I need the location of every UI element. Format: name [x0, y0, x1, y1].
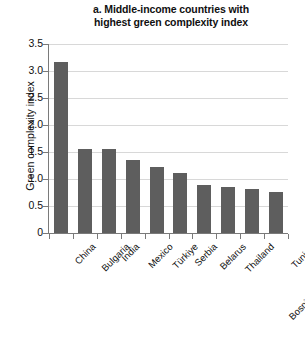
x-tick-mark [192, 234, 193, 239]
y-tick-label: 3.0 [8, 64, 43, 76]
y-tick-label: 0.5 [8, 199, 43, 211]
x-tick-mark [288, 234, 289, 239]
y-tick-label: 2.0 [8, 118, 43, 130]
bar [245, 189, 259, 233]
x-tick-mark [264, 234, 265, 239]
x-tick-mark [97, 234, 98, 239]
x-tick-label: Thailand [243, 241, 277, 275]
chart-figure: a. Middle-income countries with highest … [0, 0, 305, 348]
x-tick-label: China [72, 241, 97, 266]
y-axis-title: Green complexity index [24, 51, 36, 221]
x-tick-mark [121, 234, 122, 239]
bar [197, 185, 211, 233]
x-tick-label: Mexico [145, 241, 174, 270]
x-tick-mark [49, 234, 50, 239]
bar [221, 187, 235, 233]
plot-area [49, 44, 288, 233]
bar [150, 167, 164, 233]
y-tick-label: 3.5 [8, 37, 43, 49]
chart-title-line-1: a. Middle-income countries with [46, 3, 296, 16]
y-tick-label: 1.5 [8, 145, 43, 157]
bar [102, 149, 116, 233]
gridline [49, 125, 288, 126]
y-tick-label: 2.5 [8, 91, 43, 103]
x-tick-label: Tunisia [289, 241, 305, 270]
y-tick-label: 1.0 [8, 172, 43, 184]
gridline [49, 44, 288, 45]
bar [126, 160, 140, 233]
bar [269, 192, 283, 233]
bar [173, 173, 187, 233]
gridline [49, 98, 288, 99]
chart-title: a. Middle-income countries with highest … [46, 3, 296, 29]
x-tick-mark [145, 234, 146, 239]
x-tick-mark [73, 234, 74, 239]
bar [78, 149, 92, 233]
x-tick-mark [169, 234, 170, 239]
x-tick-mark [240, 234, 241, 239]
gridline [49, 71, 288, 72]
x-tick-mark [216, 234, 217, 239]
chart-title-line-2: highest green complexity index [46, 16, 296, 29]
bar [54, 62, 68, 233]
y-tick-label: 0 [8, 226, 43, 238]
